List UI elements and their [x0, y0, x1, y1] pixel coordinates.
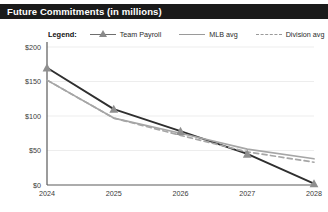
y-axis-tick-label: $150 [25, 77, 41, 86]
chart-series-group [47, 68, 314, 184]
chart-title-bar: Future Commitments (in millions) [0, 4, 328, 19]
x-axis-tick-label: 2027 [239, 189, 255, 198]
legend-item-team-payroll: Team Payroll [90, 30, 162, 39]
x-axis-tick-label: 2026 [173, 189, 189, 198]
data-point-marker [43, 63, 52, 71]
legend-item-label: Team Payroll [120, 30, 162, 39]
legend-item-label: MLB avg [209, 30, 237, 39]
x-axis-tick-labels: 20242025202620272028 [39, 189, 322, 198]
x-axis-tick-label: 2024 [39, 189, 55, 198]
y-axis-tick-label: $200 [25, 43, 41, 52]
series-line [47, 68, 314, 184]
y-axis-tick-labels: $0$50$100$150$200 [25, 43, 41, 190]
data-point-marker [109, 105, 118, 113]
chart-legend: Legend: Team Payroll MLB avg Division av… [48, 27, 324, 41]
line-chart-svg: $0$50$100$150$200 20242025202620272028 [0, 40, 328, 200]
chart-card: Future Commitments (in millions) Legend:… [0, 0, 328, 212]
legend-marker-triangle-icon [90, 30, 116, 38]
legend-line-icon [179, 30, 205, 38]
legend-item-mlb-avg: MLB avg [179, 30, 237, 39]
legend-item-label: Division avg [286, 30, 325, 39]
x-axis-tick-label: 2025 [106, 189, 122, 198]
x-axis-tick-label: 2028 [306, 189, 322, 198]
page-title: Future Commitments (in millions) [0, 6, 162, 17]
legend-dashed-line-icon [256, 30, 282, 38]
y-axis-tick-label: $100 [25, 112, 41, 121]
chart-plot-area: $0$50$100$150$200 20242025202620272028 [0, 40, 328, 200]
legend-item-division-avg: Division avg [256, 30, 325, 39]
legend-label: Legend: [48, 30, 77, 39]
y-axis-tick-label: $50 [29, 146, 41, 155]
